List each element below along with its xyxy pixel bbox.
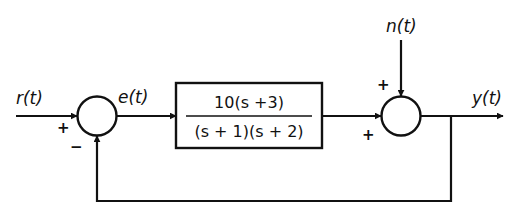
output-signal-label: y(t) (471, 88, 502, 108)
sum1-plus-sign: + (57, 119, 70, 137)
disturbance-signal-label: n(t) (386, 16, 417, 36)
summing-junction-1 (78, 97, 117, 136)
plant-numerator: 10(s +3) (214, 93, 284, 112)
error-signal-label: e(t) (118, 87, 148, 107)
sum2-disturbance-plus-sign: + (377, 76, 390, 94)
plant-denominator: (s + 1)(s + 2) (194, 122, 303, 141)
sum1-minus-sign: − (70, 138, 83, 156)
summing-junction-2 (382, 97, 421, 136)
block-diagram: r(t) + − e(t) 10(s +3) (s + 1)(s + 2) + … (0, 0, 517, 215)
input-signal-label: r(t) (16, 88, 43, 108)
sum2-plant-plus-sign: + (362, 126, 375, 144)
